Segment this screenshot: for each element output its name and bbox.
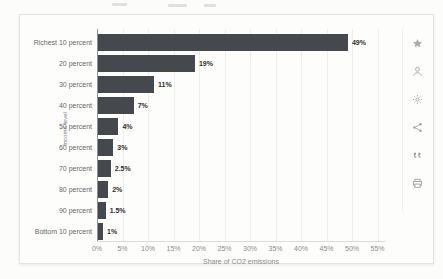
category-label: 90 percent (17, 202, 92, 219)
bar[interactable] (98, 223, 103, 240)
category-label: Bottom 10 percent (17, 223, 92, 240)
x-tick-label: 25% (212, 245, 238, 252)
category-label: 60 percent (17, 139, 92, 156)
gridline (378, 29, 379, 241)
x-tick-label: 45% (314, 245, 340, 252)
favorite-star-icon[interactable] (405, 29, 429, 57)
bar[interactable] (98, 76, 154, 93)
bar-value-label: 4% (122, 118, 132, 135)
x-tick-label: 15% (161, 245, 187, 252)
bar-value-label: 3% (117, 139, 127, 156)
cropped-title-fragment (168, 4, 187, 7)
bar[interactable] (98, 118, 118, 135)
cropped-title-fragment (112, 3, 127, 6)
category-label: 30 percent (17, 76, 92, 93)
bar-value-label: 1.5% (110, 202, 126, 219)
x-tick-label: 0% (84, 245, 110, 252)
x-tick-label: 5% (110, 245, 136, 252)
bar-value-label: 19% (199, 55, 213, 72)
gridline (352, 29, 353, 241)
x-tick-label: 20% (186, 245, 212, 252)
bar-value-label: 11% (158, 76, 172, 93)
gridline (276, 29, 277, 241)
x-tick-label: 50% (339, 245, 365, 252)
plot-area: Income level Richest 10 percent49%20 per… (97, 29, 387, 241)
bar[interactable] (98, 202, 106, 219)
chart-toolbar (402, 29, 431, 211)
category-label: 50 percent (17, 118, 92, 135)
cropped-title-fragment (204, 4, 216, 7)
bar-value-label: 2% (112, 181, 122, 198)
gridline (225, 29, 226, 241)
category-label: 80 percent (17, 181, 92, 198)
bar-value-label: 2.5% (115, 160, 131, 177)
x-axis-title: Share of CO2 emissions (97, 258, 385, 265)
user-icon[interactable] (405, 57, 429, 85)
settings-gear-icon[interactable] (405, 85, 429, 113)
x-tick-label: 40% (288, 245, 314, 252)
x-axis-line (97, 241, 385, 242)
print-icon[interactable] (405, 169, 429, 197)
x-tick-label: 30% (237, 245, 263, 252)
category-label: 40 percent (17, 97, 92, 114)
bar[interactable] (98, 34, 348, 51)
bar[interactable] (98, 55, 195, 72)
bar[interactable] (98, 181, 108, 198)
x-tick-label: 55% (365, 245, 391, 252)
share-icon[interactable] (405, 113, 429, 141)
category-label: 20 percent (17, 55, 92, 72)
bar-value-label: 49% (352, 34, 366, 51)
bar-value-label: 1% (107, 223, 117, 240)
gridline (327, 29, 328, 241)
bar[interactable] (98, 160, 111, 177)
quote-icon[interactable] (405, 141, 429, 169)
chart-card: Income level Richest 10 percent49%20 per… (19, 14, 434, 264)
x-tick-label: 10% (135, 245, 161, 252)
bar-value-label: 7% (138, 97, 148, 114)
bar[interactable] (98, 139, 113, 156)
category-label: Richest 10 percent (17, 34, 92, 51)
category-label: 70 percent (17, 160, 92, 177)
bar[interactable] (98, 97, 134, 114)
gridline (250, 29, 251, 241)
gridline (301, 29, 302, 241)
x-tick-label: 35% (263, 245, 289, 252)
